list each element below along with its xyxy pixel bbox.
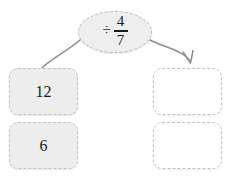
fraction: 4 7 [114,14,128,48]
right-arrow-connector [150,40,190,61]
left-curve-connector [42,40,80,68]
division-sign-icon: ÷ [102,23,110,38]
input-box-1-value: 12 [36,83,52,101]
operation-node: ÷ 4 7 [78,11,152,53]
fraction-denominator: 7 [115,32,127,48]
input-box-1[interactable]: 12 [9,68,78,115]
input-box-2-value: 6 [40,137,48,155]
fraction-numerator: 4 [115,14,127,30]
diagram-canvas: ÷ 4 7 12 6 [0,0,232,182]
output-box-2[interactable] [153,122,222,169]
arrowhead-icon [183,51,193,64]
output-box-1[interactable] [153,68,222,115]
input-box-2[interactable]: 6 [9,122,78,169]
operation-expression: ÷ 4 7 [102,14,127,48]
